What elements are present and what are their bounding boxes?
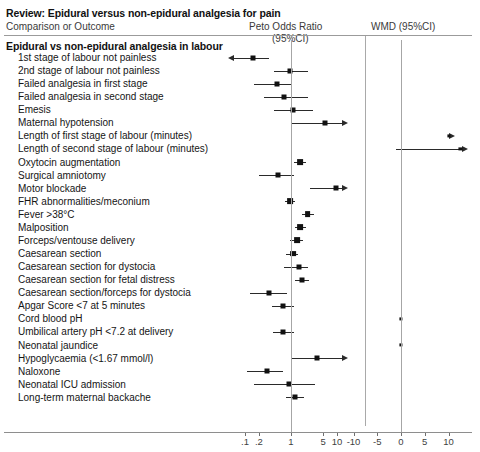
effect-estimate-marker bbox=[333, 186, 338, 191]
outcome-label: Failed analgesia in first stage bbox=[18, 78, 148, 89]
outcome-label: Motor blockade bbox=[18, 183, 86, 194]
outcome-label: Caesarean section for fetal distress bbox=[18, 274, 175, 285]
outcome-label: Forceps/ventouse delivery bbox=[18, 235, 135, 246]
outcome-label: FHR abnormalities/meconium bbox=[18, 196, 150, 207]
outcome-label: Length of first stage of labour (minutes… bbox=[18, 130, 192, 141]
effect-estimate-marker bbox=[297, 159, 303, 165]
outcome-label: Naloxone bbox=[18, 366, 60, 377]
axis-tick-label-wmd: 0 bbox=[398, 436, 403, 447]
outcome-label: Maternal hypotension bbox=[18, 117, 114, 128]
axis-tick-label-wmd: -5 bbox=[373, 436, 381, 447]
confidence-interval-line bbox=[254, 84, 291, 85]
outcome-label: Surgical amniotomy bbox=[18, 170, 106, 181]
ci-arrow-right-icon bbox=[342, 185, 348, 191]
outcome-label: Umbilical artery pH <7.2 at delivery bbox=[18, 326, 173, 337]
outcome-label: Caesarean section for dystocia bbox=[18, 261, 155, 272]
effect-estimate-marker bbox=[267, 290, 272, 295]
effect-estimate-marker bbox=[299, 277, 304, 282]
axis-tick-label-or: 5 bbox=[320, 436, 325, 447]
outcome-label: Caesarean section bbox=[18, 248, 101, 259]
ci-arrow-right-icon bbox=[462, 146, 468, 152]
outcome-label: Length of second stage of labour (minute… bbox=[18, 143, 208, 154]
header-divider bbox=[4, 35, 472, 36]
effect-estimate-marker bbox=[297, 264, 302, 269]
outcome-label: Fever >38°C bbox=[18, 209, 75, 220]
axis-tick-label-or: 10 bbox=[332, 436, 343, 447]
effect-estimate-marker bbox=[459, 147, 462, 150]
axis-tick-label-or: .2 bbox=[255, 436, 263, 447]
odds-ratio-null-line bbox=[291, 40, 292, 432]
ci-arrow-right-icon bbox=[342, 355, 348, 361]
outcome-label: Caesarean section/forceps for dystocia bbox=[18, 287, 191, 298]
effect-estimate-marker bbox=[323, 120, 328, 125]
axis-tick-label-or: .1 bbox=[241, 436, 249, 447]
panel-divider bbox=[365, 36, 366, 426]
axis-tick-label-wmd: 5 bbox=[422, 436, 427, 447]
effect-estimate-marker bbox=[275, 81, 280, 86]
outcome-label: Failed analgesia in second stage bbox=[18, 91, 164, 102]
effect-estimate-marker bbox=[314, 356, 319, 361]
effect-estimate-marker bbox=[447, 134, 450, 137]
column-header-wmd: WMD (95%CI) bbox=[371, 21, 435, 32]
outcome-label: Neonatal jaundice bbox=[18, 340, 98, 351]
effect-estimate-marker bbox=[264, 369, 269, 374]
outcome-label: Hypoglycaemia (<1.67 mmol/l) bbox=[18, 353, 153, 364]
effect-estimate-marker bbox=[275, 173, 280, 178]
outcome-label: 2nd stage of labour not painless bbox=[18, 65, 160, 76]
outcome-label: Cord blood pH bbox=[18, 313, 82, 324]
axis-tick-label-or: 1 bbox=[288, 436, 293, 447]
column-header-peto-odds-ratio: Peto Odds Ratio bbox=[249, 21, 322, 32]
axis-tick-label-wmd: 10 bbox=[443, 436, 454, 447]
effect-estimate-marker bbox=[292, 395, 297, 400]
effect-estimate-marker bbox=[251, 55, 256, 60]
page-title: Review: Epidural versus non-epidural ana… bbox=[6, 7, 281, 19]
ci-arrow-left-icon bbox=[228, 55, 234, 61]
outcome-label: 1st stage of labour not painless bbox=[18, 52, 156, 63]
outcome-label: Long-term maternal backache bbox=[18, 392, 151, 403]
confidence-interval-line bbox=[396, 149, 462, 150]
axis-tick-label-wmd: -10 bbox=[347, 436, 361, 447]
effect-estimate-marker bbox=[280, 303, 285, 308]
outcome-label: Malposition bbox=[18, 222, 69, 233]
wmd-null-line bbox=[401, 40, 402, 432]
outcome-label: Neonatal ICU admission bbox=[18, 379, 126, 390]
effect-estimate-marker bbox=[294, 238, 300, 244]
group-title: Epidural vs non-epidural analgesia in la… bbox=[6, 40, 223, 52]
effect-estimate-marker bbox=[280, 329, 285, 334]
effect-estimate-marker bbox=[297, 225, 303, 231]
forest-plot-figure: Review: Epidural versus non-epidural ana… bbox=[0, 0, 480, 452]
effect-estimate-marker bbox=[305, 211, 311, 217]
ci-arrow-right-icon bbox=[342, 120, 348, 126]
outcome-label: Oxytocin augmentation bbox=[18, 157, 120, 168]
effect-estimate-marker bbox=[281, 94, 286, 99]
column-header-comparison: Comparison or Outcome bbox=[6, 21, 115, 32]
confidence-interval-line bbox=[254, 384, 315, 385]
outcome-label: Emesis bbox=[18, 104, 51, 115]
outcome-label: Apgar Score <7 at 5 minutes bbox=[18, 300, 145, 311]
confidence-interval-line bbox=[291, 123, 342, 124]
